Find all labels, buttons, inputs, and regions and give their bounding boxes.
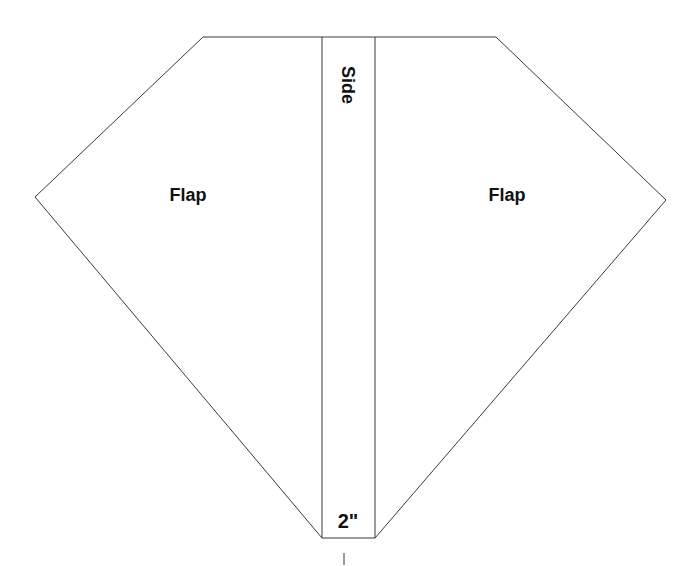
pattern-diagram: Flap Flap Side 2" [0,0,691,566]
side-label: Side [338,66,358,104]
width-measurement-label: 2" [338,510,359,532]
right-flap-label: Flap [488,185,525,205]
left-flap-label: Flap [169,185,206,205]
pattern-outline [35,37,666,538]
